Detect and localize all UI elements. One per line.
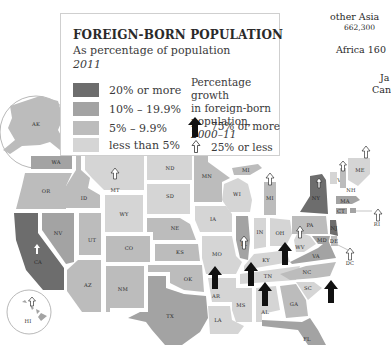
svg-text:NV: NV [54,230,63,236]
svg-text:LA: LA [214,317,222,323]
state-RI [350,208,356,213]
svg-text:NJ: NJ [330,225,337,232]
svg-text:NC: NC [303,269,312,275]
svg-text:PA: PA [306,222,313,228]
svg-text:MT: MT [110,187,120,193]
svg-text:WY: WY [119,211,129,217]
label-can: Can [372,84,391,95]
label-other-asia: other Asia [330,11,379,22]
map-title: FOREIGN-BORN POPULATION [73,28,283,42]
svg-text:MI: MI [242,167,250,173]
svg-text:RI: RI [374,221,380,227]
legend-label-20-plus: 20% or more [109,84,181,97]
svg-text:CA: CA [34,259,42,265]
state-VT [330,172,337,184]
svg-text:OK: OK [184,276,193,282]
svg-text:IA: IA [210,216,216,222]
arrow-up-black-icon [324,280,338,303]
svg-text:TX: TX [166,313,174,319]
svg-text:FL: FL [303,336,311,342]
svg-text:MO: MO [212,251,222,257]
map-year: 2011 [73,58,101,71]
arrow-up-black-icon [188,117,202,137]
svg-text:WI: WI [233,191,241,197]
label-ja: Ja [380,72,389,83]
label-other-asia-value: 662,300 [344,23,375,32]
arrow-up-outline-icon [374,209,382,221]
svg-text:VA: VA [311,253,320,259]
svg-text:IN: IN [257,229,264,235]
svg-text:MA: MA [340,198,350,204]
svg-text:KS: KS [176,249,184,255]
svg-text:DE: DE [330,238,338,244]
arrow-up-outline-icon [191,140,201,153]
growth-low-label: 25% or less [211,141,273,153]
svg-text:NY: NY [312,195,321,201]
svg-text:KY: KY [262,257,270,263]
svg-text:DC: DC [346,260,355,266]
svg-text:MN: MN [202,173,213,179]
state-SD [147,184,190,214]
svg-text:GA: GA [290,301,298,307]
svg-text:MD: MD [317,237,327,243]
legend-swatch-5-9 [73,121,99,135]
svg-text:OR: OR [42,188,51,194]
legend-label-lt5: less than 5% [109,139,180,152]
legend-box: FOREIGN-BORN POPULATION As percentage of… [60,13,280,156]
label-AK: AK [31,121,40,127]
hawaii-inset: HI [7,290,51,334]
svg-text:SD: SD [166,193,174,199]
state-NY [300,174,328,214]
legend-swatch-10-19 [73,102,99,116]
state-FL [262,318,326,345]
label-HI: HI [25,318,32,324]
label-africa: Africa 160 [336,44,386,55]
svg-text:AL: AL [260,309,269,315]
svg-text:ME: ME [355,167,365,173]
svg-text:CO: CO [125,245,134,251]
svg-text:TN: TN [264,273,273,279]
arrow-up-outline-icon [362,146,370,158]
svg-text:NE: NE [171,225,180,231]
svg-text:AR: AR [211,293,221,299]
state-UT [79,213,101,255]
legend-label-10-19: 10% – 19.9% [109,103,181,116]
growth-high-label: 75% or more [211,120,280,132]
state-MO [202,236,242,274]
svg-text:CT: CT [337,208,345,214]
svg-text:UT: UT [88,237,97,243]
svg-text:ND: ND [165,165,174,171]
svg-text:WV: WV [295,244,305,250]
svg-text:WA: WA [51,159,60,165]
svg-text:AZ: AZ [83,282,92,288]
legend-swatch-20-plus [73,83,99,97]
svg-text:OH: OH [275,230,284,236]
svg-text:SC: SC [304,285,312,291]
svg-text:NH: NH [346,187,356,193]
legend-label-5-9: 5% – 9.9% [109,122,167,135]
svg-text:MI: MI [266,195,274,201]
svg-text:MS: MS [236,302,246,308]
map-subtitle: As percentage of population [73,44,230,57]
svg-text:NM: NM [118,286,129,292]
legend-swatch-lt5 [73,138,99,152]
svg-text:ID: ID [81,195,88,201]
